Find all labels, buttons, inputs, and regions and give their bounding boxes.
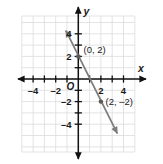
y-tick-label-2: 2 [66,51,71,62]
coordinate-plane-svg: –4 –2 2 4 4 2 –2 –4 O x y (0, 2) (2, –2) [0,0,163,164]
y-tick-label-neg2: –2 [61,96,72,107]
origin-label: O [67,81,75,92]
x-tick-label-neg4: –4 [28,85,39,96]
y-tick-label-neg4: –4 [61,119,72,130]
annotation-point-2-neg2: (2, –2) [106,96,133,107]
x-axis-label: x [137,62,145,74]
data-point-second [99,99,103,103]
x-tick-label-4: 4 [121,85,127,96]
data-point-y-intercept [76,54,80,58]
annotation-point-0-2: (0, 2) [84,44,106,55]
figure-background [0,0,163,164]
y-tick-label-4: 4 [66,28,72,39]
y-axis-label: y [83,5,91,17]
x-tick-label-2: 2 [98,85,103,96]
x-tick-label-neg2: –2 [50,85,61,96]
coordinate-plane-figure: –4 –2 2 4 4 2 –2 –4 O x y (0, 2) (2, –2) [0,0,163,164]
